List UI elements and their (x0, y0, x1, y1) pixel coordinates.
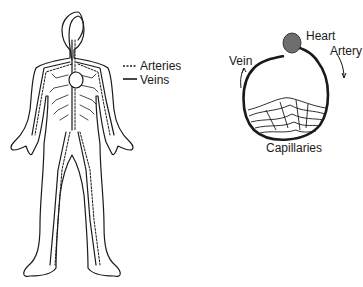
body-heart-shape (69, 72, 83, 88)
heart-label: Heart (306, 30, 335, 42)
artery-label: Artery (330, 45, 362, 57)
vein-label: Vein (229, 55, 252, 67)
circulation-loop (241, 46, 346, 140)
legend-veins-label: Veins (140, 74, 169, 86)
capillaries-label: Capillaries (266, 142, 322, 154)
legend-arteries-label: Arteries (140, 60, 181, 72)
loop-heart-icon (283, 33, 301, 53)
